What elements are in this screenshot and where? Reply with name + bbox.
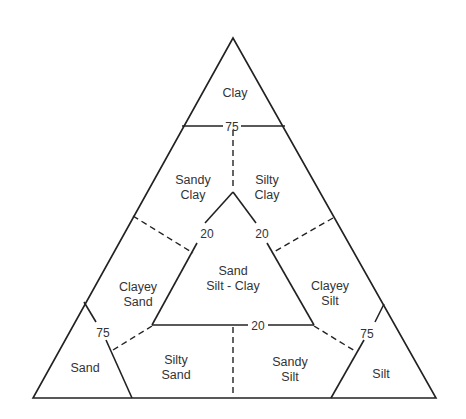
region-clayey-silt-l2: Silt: [321, 294, 339, 308]
threshold-bottom-20: 20: [251, 319, 265, 333]
region-silt: Silt: [372, 367, 390, 381]
threshold-left-75: 75: [96, 326, 110, 340]
threshold-right-20: 20: [255, 227, 269, 241]
region-silty-clay-l1: Silty: [255, 173, 279, 187]
inner-left-edge-bottom: [152, 243, 197, 325]
threshold-left-20: 20: [200, 227, 214, 241]
region-clayey-sand-l2: Sand: [123, 295, 152, 309]
region-sand: Sand: [70, 361, 99, 375]
region-clay: Clay: [222, 86, 248, 100]
region-sandy-clay-l2: Clay: [180, 188, 206, 202]
inner-left-edge-top: [205, 192, 233, 223]
dash-left-lower: [113, 326, 152, 350]
inner-right-edge-top: [233, 192, 256, 223]
soil-ternary-diagram: 75 20 20 20 75 75 Clay Sandy Clay Silty …: [0, 0, 466, 419]
region-clayey-sand-l1: Clayey: [119, 280, 158, 294]
dash-right-upper: [272, 218, 333, 253]
region-sand-silt-clay-l2: Silt - Clay: [206, 279, 260, 293]
threshold-top-75: 75: [225, 120, 239, 134]
silt-75-line-bottom: [331, 340, 364, 398]
region-sandy-clay-l1: Sandy: [175, 173, 211, 187]
silt-75-line-top: [375, 304, 384, 322]
region-sand-silt-clay-l1: Sand: [218, 264, 247, 278]
threshold-right-75: 75: [360, 327, 374, 341]
region-sandy-silt-l2: Silt: [281, 370, 299, 384]
dash-left-upper: [133, 216, 193, 253]
sand-75-line-top: [84, 302, 96, 322]
region-clayey-silt-l1: Clayey: [311, 279, 350, 293]
inner-right-edge-bottom: [267, 243, 314, 325]
region-silty-sand-l1: Silty: [164, 353, 188, 367]
region-sandy-silt-l1: Sandy: [272, 355, 308, 369]
region-silty-clay-l2: Clay: [254, 188, 280, 202]
dash-right-lower: [314, 326, 355, 351]
region-silty-sand-l2: Sand: [161, 368, 190, 382]
sand-75-line-bottom: [106, 340, 132, 398]
